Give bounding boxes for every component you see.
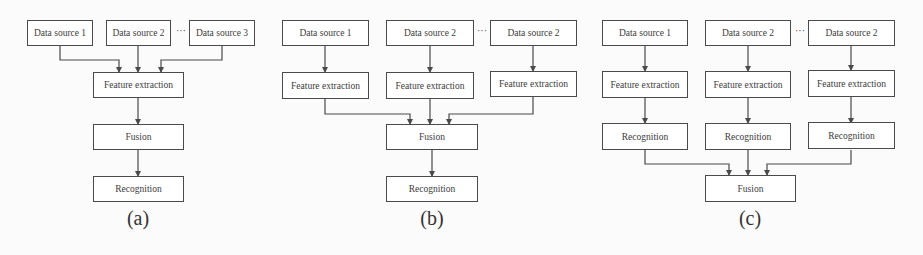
panel-c-data-source-2: Data source 2 [705, 20, 791, 46]
panel-b-data-source-1: Data source 1 [282, 20, 369, 46]
panel-a-caption: (a) [118, 207, 158, 230]
panel-b-feature-extraction-1: Feature extraction [282, 72, 369, 99]
panel-c-recognition-1: Recognition [602, 123, 688, 150]
panel-b-caption: (b) [412, 207, 452, 230]
panel-c-fusion: Fusion [705, 175, 796, 202]
panel-a-feature-extraction: Feature extraction [93, 72, 184, 98]
panel-c-data-source-3: Data source 2 [808, 20, 895, 46]
diagram-canvas: Data source 1 Data source 2 ··· Data sou… [0, 0, 923, 255]
panel-a-data-source-2: Data source 2 [106, 20, 171, 46]
panel-c-caption: (c) [730, 207, 770, 230]
panel-a-data-source-1: Data source 1 [27, 20, 93, 46]
panel-c-ellipsis: ··· [795, 25, 805, 36]
panel-b-recognition: Recognition [386, 176, 478, 202]
panel-b-data-source-2: Data source 2 [386, 20, 474, 46]
panel-b-feature-extraction-2: Feature extraction [386, 72, 474, 99]
panel-b-data-source-3: Data source 2 [490, 20, 577, 46]
panel-a-ellipsis: ··· [176, 25, 186, 36]
panel-c-recognition-2: Recognition [705, 123, 791, 150]
panel-b-ellipsis: ··· [477, 25, 487, 36]
panel-c-feature-extraction-3: Feature extraction [808, 70, 895, 97]
panel-a-recognition: Recognition [93, 176, 184, 202]
panel-c-feature-extraction-1: Feature extraction [602, 71, 688, 98]
panel-b-feature-extraction-3: Feature extraction [490, 71, 577, 97]
panel-c-recognition-3: Recognition [808, 122, 895, 149]
panel-a-fusion: Fusion [93, 124, 184, 150]
panel-c-data-source-1: Data source 1 [602, 20, 688, 46]
panel-c-feature-extraction-2: Feature extraction [705, 71, 791, 98]
panel-b-fusion: Fusion [386, 124, 478, 150]
panel-a-data-source-3: Data source 3 [189, 20, 255, 46]
